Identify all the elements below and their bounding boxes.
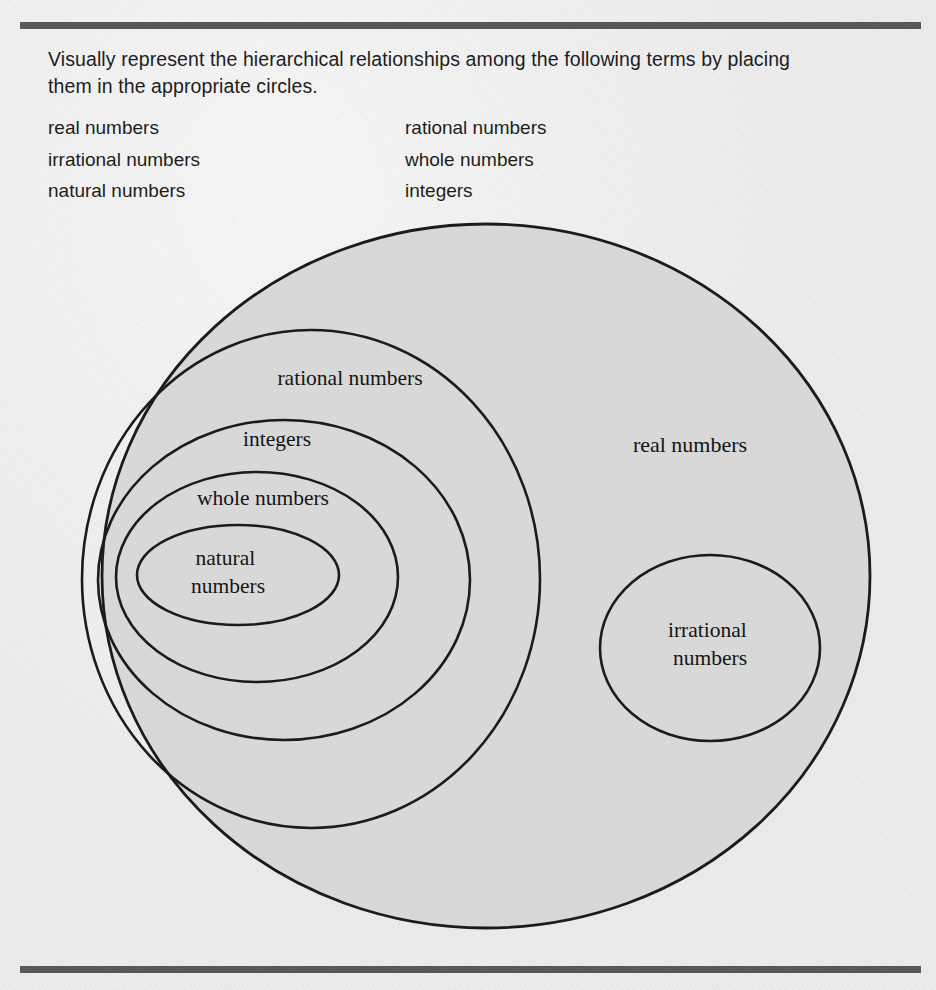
label-natural-numbers: natural numbers: [191, 546, 265, 598]
term-integers: integers: [405, 175, 547, 207]
term-list-right: rational numbers whole numbers integers: [405, 112, 547, 207]
term-irrational-numbers: irrational numbers: [48, 144, 200, 176]
label-integers: integers: [243, 427, 311, 451]
label-rational-numbers: rational numbers: [277, 366, 422, 390]
label-natural-numbers-line1: natural: [195, 546, 255, 570]
top-rule-divider: [20, 22, 921, 29]
label-real-numbers: real numbers: [633, 432, 747, 457]
term-whole-numbers: whole numbers: [405, 144, 547, 176]
region-whole-numbers: [116, 472, 398, 682]
label-irrational-numbers-line1: irrational: [668, 618, 747, 642]
term-natural-numbers: natural numbers: [48, 175, 200, 207]
instruction-text: Visually represent the hierarchical rela…: [48, 46, 838, 100]
term-real-numbers: real numbers: [48, 112, 200, 144]
label-irrational-numbers: irrational numbers: [668, 618, 752, 670]
bottom-rule-divider: [20, 966, 921, 973]
label-whole-numbers: whole numbers: [197, 486, 329, 510]
region-rational-numbers: [82, 330, 540, 828]
label-irrational-numbers-line2: numbers: [673, 646, 747, 670]
region-natural-numbers: [137, 525, 339, 625]
label-natural-numbers-line2: numbers: [191, 574, 265, 598]
term-rational-numbers: rational numbers: [405, 112, 547, 144]
region-irrational-numbers: [600, 555, 820, 741]
term-list-left: real numbers irrational numbers natural …: [48, 112, 200, 207]
worksheet-page: Visually represent the hierarchical rela…: [0, 0, 936, 990]
region-real-numbers: [102, 224, 870, 928]
region-integers: [98, 420, 470, 740]
